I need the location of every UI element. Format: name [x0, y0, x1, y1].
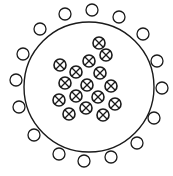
open-circle-icon [131, 137, 143, 149]
open-circle-icon [17, 48, 29, 60]
open-circle-icon [28, 129, 40, 141]
cross-circle-icon [70, 66, 82, 78]
cross-circle-icon [54, 59, 66, 71]
cross-circle-icon [53, 94, 65, 106]
open-circle-icon [86, 4, 98, 16]
cross-circle-icon [81, 79, 93, 91]
open-circle-icon [59, 8, 71, 20]
cross-circle-icon [63, 108, 75, 120]
cross-circle-icon [59, 77, 71, 89]
cross-circle-icon [92, 91, 104, 103]
cross-circle-icon [83, 55, 95, 67]
cross-circle-icon [94, 67, 106, 79]
open-circle-icon [53, 148, 65, 160]
open-circle-icon [156, 82, 168, 94]
cross-circle-icon [105, 80, 117, 92]
open-circle-icon [34, 23, 46, 35]
cross-circle-icon [100, 49, 112, 61]
current-diagram [0, 0, 173, 176]
open-circle-icon [13, 101, 25, 113]
cross-circle-icon [93, 37, 105, 49]
open-circle-icon [148, 112, 160, 124]
cross-circle-icon [70, 90, 82, 102]
cross-circles-group [53, 37, 121, 121]
open-circle-icon [10, 74, 22, 86]
cross-circle-icon [97, 109, 109, 121]
open-circle-icon [151, 55, 163, 67]
open-circle-icon [105, 151, 117, 163]
open-circle-icon [113, 11, 125, 23]
cross-circle-icon [80, 102, 92, 114]
open-circle-icon [78, 155, 90, 167]
open-circle-icon [137, 28, 149, 40]
cross-circle-icon [109, 98, 121, 110]
